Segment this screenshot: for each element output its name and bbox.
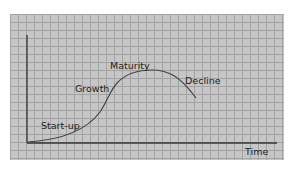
lifecycle-curve	[28, 70, 196, 142]
label-growth: Growth	[75, 84, 109, 94]
label-startup: Start-up	[41, 121, 80, 131]
label-maturity: Maturity	[110, 61, 150, 71]
label-decline: Decline	[185, 76, 221, 86]
x-axis-label-time: Time	[245, 147, 268, 157]
